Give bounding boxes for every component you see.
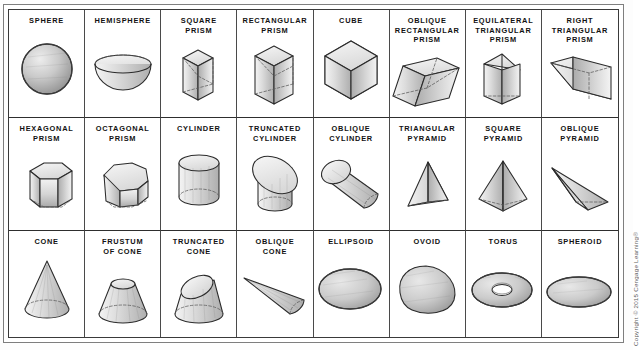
solid-cell-cone: CONE	[9, 231, 85, 337]
truncated-cone-icon	[161, 256, 236, 337]
ellipsoid-icon	[314, 247, 389, 337]
solid-cell-truncated-cone: TRUNCATED CONE	[161, 231, 237, 337]
solid-label: TRIANGULAR PYRAMID	[397, 124, 457, 143]
solid-label: OBLIQUE CONE	[253, 237, 296, 256]
frustum-of-cone-icon	[85, 256, 160, 337]
solid-cell-ovoid: OVOID	[390, 231, 466, 337]
solid-cell-rectangular-prism: RECTANGULAR PRISM	[237, 10, 313, 118]
hemisphere-icon	[85, 26, 160, 117]
spheroid-icon	[542, 247, 618, 337]
solid-label: RECTANGULAR PRISM	[241, 16, 310, 35]
solid-label: SQUARE PRISM	[179, 16, 219, 35]
solid-cell-ellipsoid: ELLIPSOID	[314, 231, 390, 337]
solid-label: CONE	[32, 237, 60, 247]
solid-cell-spheroid: SPHEROID	[542, 231, 618, 337]
copyright-notice: Copyright © 2015 Cengage Learning®	[632, 228, 639, 346]
square-pyramid-icon	[466, 143, 541, 230]
solid-cell-frustum-of-cone: FRUSTUM OF CONE	[85, 231, 161, 337]
sphere-icon	[9, 26, 84, 117]
solid-cell-triangular-pyramid: TRIANGULAR PYRAMID	[390, 118, 466, 231]
solid-label: RIGHT TRIANGULAR PRISM	[550, 16, 610, 45]
solid-cell-octagonal-prism: OCTAGONAL PRISM	[85, 118, 161, 231]
cylinder-icon	[161, 134, 236, 230]
solid-cell-cylinder: CYLINDER	[161, 118, 237, 231]
solid-cell-torus: TORUS	[466, 231, 542, 337]
oblique-cylinder-icon	[314, 143, 389, 230]
oblique-pyramid-icon	[542, 143, 618, 230]
rectangular-prism-icon	[237, 35, 312, 117]
octagonal-prism-icon	[85, 143, 160, 230]
solid-label: EQUILATERAL TRIANGULAR PRISM	[471, 16, 535, 45]
solid-label: OBLIQUE RECTANGULAR PRISM	[393, 16, 462, 45]
oblique-rectangular-prism-icon	[390, 45, 465, 117]
hexagonal-prism-icon	[9, 143, 84, 230]
solid-label: SQUARE PYRAMID	[482, 124, 525, 143]
truncated-cylinder-icon	[237, 143, 312, 230]
equilateral-triangular-prism-icon	[466, 45, 541, 117]
solid-cell-truncated-cylinder: TRUNCATED CYLINDER	[237, 118, 313, 231]
cone-icon	[9, 247, 84, 337]
solid-cell-oblique-cone: OBLIQUE CONE	[237, 231, 313, 337]
triangular-pyramid-icon	[390, 143, 465, 230]
solid-cell-hexagonal-prism: HEXAGONAL PRISM	[9, 118, 85, 231]
solid-cell-equilateral-triangular-prism: EQUILATERAL TRIANGULAR PRISM	[466, 10, 542, 118]
solid-label: CYLINDER	[175, 124, 223, 134]
solid-cell-square-prism: SQUARE PRISM	[161, 10, 237, 118]
solid-label: OBLIQUE PYRAMID	[558, 124, 601, 143]
solid-label: OCTAGONAL PRISM	[94, 124, 152, 143]
square-prism-icon	[161, 35, 236, 117]
solid-label: HEXAGONAL PRISM	[18, 124, 76, 143]
solid-label: SPHEROID	[556, 237, 605, 247]
solids-grid: SPHEREHEMISPHERESQUARE PRISMRECTANGULAR …	[9, 10, 618, 337]
solid-cell-oblique-pyramid: OBLIQUE PYRAMID	[542, 118, 618, 231]
solid-label: TRUNCATED CYLINDER	[247, 124, 303, 143]
cube-icon	[314, 26, 389, 117]
torus-icon	[466, 247, 541, 337]
solid-label: SPHERE	[27, 16, 66, 26]
solid-label: TRUNCATED CONE	[171, 237, 227, 256]
solid-cell-sphere: SPHERE	[9, 10, 85, 118]
solid-label: FRUSTUM OF CONE	[100, 237, 145, 256]
solid-label: HEMISPHERE	[93, 16, 153, 26]
solid-cell-hemisphere: HEMISPHERE	[85, 10, 161, 118]
solid-label: ELLIPSOID	[326, 237, 376, 247]
oblique-cone-icon	[237, 256, 312, 337]
solid-cell-oblique-rectangular-prism: OBLIQUE RECTANGULAR PRISM	[390, 10, 466, 118]
solid-label: TORUS	[487, 237, 520, 247]
solid-label: OVOID	[411, 237, 443, 247]
ovoid-icon	[390, 247, 465, 337]
solid-cell-oblique-cylinder: OBLIQUE CYLINDER	[314, 118, 390, 231]
solid-label: OBLIQUE CYLINDER	[327, 124, 375, 143]
right-triangular-prism-icon	[542, 45, 618, 117]
solid-label: CUBE	[337, 16, 365, 26]
solid-cell-square-pyramid: SQUARE PYRAMID	[466, 118, 542, 231]
solid-cell-right-triangular-prism: RIGHT TRIANGULAR PRISM	[542, 10, 618, 118]
solid-cell-cube: CUBE	[314, 10, 390, 118]
